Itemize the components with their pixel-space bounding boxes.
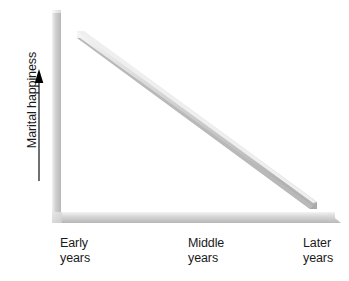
x-axis-tick-middle-years-line1: Middle (188, 236, 224, 250)
x-axis-tick-early-years-line1: Early (60, 236, 88, 250)
trend-bar-end-cap (310, 202, 317, 209)
x-axis-tick-early-years: Early years (60, 236, 90, 265)
y-axis-top-cap (52, 10, 61, 13)
x-axis-tick-early-years-line2: years (60, 251, 90, 266)
x-axis-tick-later-years: Later years (303, 236, 333, 265)
x-axis-tick-later-years-line2: years (303, 251, 333, 266)
x-axis-tick-middle-years-line2: years (188, 251, 224, 266)
trend-bar-highlight (77, 31, 317, 203)
trend-bar-shadow (77, 38, 317, 209)
chart-figure: Marital happiness Early years Middle yea… (0, 0, 349, 281)
up-arrow-icon (34, 69, 44, 181)
x-axis-tick-later-years-line1: Later (303, 236, 331, 250)
axis-origin-corner (52, 212, 62, 223)
x-axis-tick-middle-years: Middle years (188, 236, 224, 265)
x-axis-line (52, 212, 335, 223)
trend-bar-body (77, 31, 317, 209)
y-axis-line (52, 10, 61, 222)
